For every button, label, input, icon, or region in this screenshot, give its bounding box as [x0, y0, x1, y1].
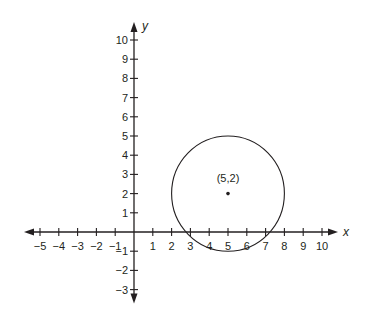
x-tick-label: 7: [263, 240, 269, 252]
y-tick-label: 3: [122, 168, 128, 180]
y-tick-label: −2: [115, 264, 128, 276]
y-tick-label: 5: [122, 130, 128, 142]
y-tick-label: 10: [116, 34, 128, 46]
y-tick-label: −3: [115, 284, 128, 296]
y-axis-bottom-arrow: [131, 294, 138, 304]
center-point-label: (5,2): [217, 172, 240, 184]
x-tick-label: 10: [316, 240, 328, 252]
x-tick-label: −2: [90, 240, 103, 252]
x-axis-left-arrow: [24, 229, 34, 236]
y-tick-label: 2: [122, 188, 128, 200]
x-tick-label: −3: [71, 240, 84, 252]
x-tick-label: −5: [34, 240, 47, 252]
y-tick-label: 4: [122, 149, 128, 161]
x-tick-label: 9: [300, 240, 306, 252]
x-tick-label: 3: [187, 240, 193, 252]
x-axis-right-arrow: [328, 229, 338, 236]
x-tick-label: 2: [169, 240, 175, 252]
center-point: [226, 192, 230, 196]
y-axis-label: y: [141, 19, 149, 33]
y-tick-label: 8: [122, 72, 128, 84]
coordinate-plane: −5−4−3−2−112345678910−3−2−112345678910 (…: [0, 0, 365, 320]
y-tick-label: 9: [122, 53, 128, 65]
ticks: −5−4−3−2−112345678910−3−2−112345678910: [34, 34, 328, 296]
x-axis-label: x: [342, 225, 350, 239]
x-tick-label: 4: [206, 240, 212, 252]
y-tick-label: 6: [122, 111, 128, 123]
y-tick-label: −1: [115, 245, 128, 257]
y-axis-top-arrow: [131, 22, 138, 32]
x-tick-label: −4: [53, 240, 66, 252]
x-tick-label: 5: [225, 240, 231, 252]
points: (5,2): [217, 172, 240, 196]
x-tick-label: 1: [150, 240, 156, 252]
y-tick-label: 1: [122, 207, 128, 219]
axes: [24, 22, 338, 304]
x-tick-label: 8: [281, 240, 287, 252]
y-tick-label: 7: [122, 92, 128, 104]
x-tick-label: 6: [244, 240, 250, 252]
